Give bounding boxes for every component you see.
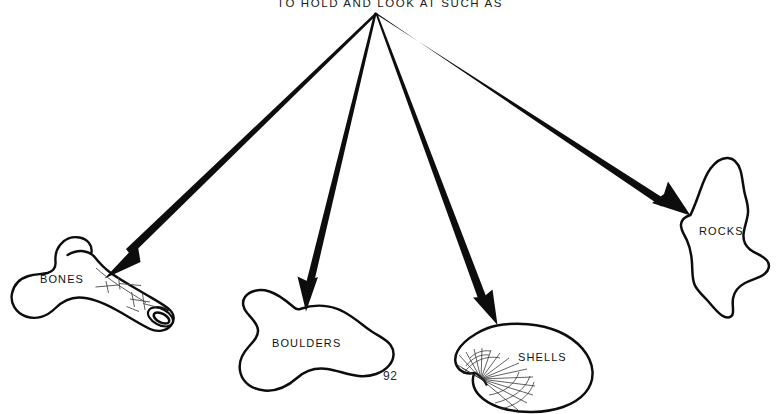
label-boulders: BOULDERS bbox=[272, 337, 341, 349]
arrow-to-bones bbox=[105, 13, 378, 279]
page-number: 92 bbox=[383, 369, 397, 383]
bone-icon bbox=[12, 237, 177, 331]
page-canvas: TO HOLD AND LOOK AT SUCH AS bbox=[0, 0, 780, 414]
arrow-to-rocks bbox=[376, 12, 691, 215]
label-rocks: ROCKS bbox=[699, 225, 744, 237]
rock-icon bbox=[681, 158, 769, 318]
label-bones: BONES bbox=[40, 273, 84, 285]
arrow-group bbox=[105, 12, 691, 325]
label-shells: SHELLS bbox=[518, 351, 567, 363]
shell-icon bbox=[455, 324, 592, 412]
arrow-to-shells bbox=[375, 13, 498, 325]
diagram-illustration bbox=[0, 0, 780, 414]
arrow-to-boulders bbox=[298, 13, 377, 312]
